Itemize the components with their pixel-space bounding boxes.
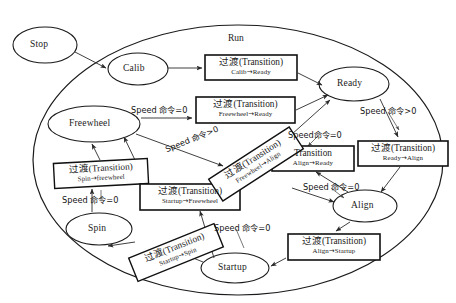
box-sub-from-ready-align: Ready <box>383 154 401 161</box>
guard-label-ready-align: Speed 命令>0 <box>360 104 416 116</box>
box-head-en-ready-align: (Transition) <box>391 143 435 153</box>
box-sub-from-spin-freewheel: Spin <box>78 174 91 182</box>
box-head-en-align-startup: (Transition) <box>322 236 366 246</box>
box-head-en-align-ready: Transition <box>294 148 332 158</box>
box-sub-from-calib-ready: Calib <box>231 68 246 75</box>
box-head-cn-ready-align: 过渡 <box>371 142 391 153</box>
box-sub-to-spin-freewheel: freewheel <box>97 172 125 180</box>
box-head-en-freewheel-ready: (Transition) <box>233 99 277 109</box>
box-sub-from-startup-freewheel: Startup <box>162 197 183 204</box>
box-text-align-startup: 过渡(Transition) Align→Startup <box>288 236 380 255</box>
box-sub-to-startup-freewheel: Freewheel <box>188 197 218 204</box>
box-sub-to-align-startup: Startup <box>335 247 356 254</box>
box-sub-to-calib-ready: Ready <box>253 68 271 75</box>
state-machine-diagram: Run Stop Calib Ready Freewheel Align Spi… <box>0 0 456 303</box>
guard-label-align-startup: Speed 命令=0 <box>303 180 359 192</box>
box-sub-to-align-ready: Ready <box>315 159 333 166</box>
box-sub-to-ready-align: Align <box>407 154 423 161</box>
box-head-cn-freewheel-ready: 过渡 <box>213 98 233 109</box>
box-head-cn-align-startup: 过渡 <box>302 235 322 246</box>
box-head-en-calib-ready: (Transition) <box>239 57 283 67</box>
guard-label-startup-spin: Speed 命令=0 <box>214 221 270 233</box>
guard-label-spin-freewheel: Speed 命令=0 <box>62 193 118 205</box>
box-head-cn-spin-freewheel: 过渡 <box>68 163 89 175</box>
box-sub-to-freewheel-ready: Ready <box>254 110 272 117</box>
box-sub-from-align-startup: Align <box>313 247 329 254</box>
box-text-freewheel-ready: 过渡(Transition) Freewheel→Ready <box>196 99 295 118</box>
box-head-cn-startup-freewheel: 过渡 <box>158 185 178 196</box>
box-text-ready-align: 过渡(Transition) Ready→Align <box>358 143 448 162</box>
box-sub-from-freewheel-ready: Freewheel <box>219 110 249 117</box>
box-sub-from-align-ready: Align <box>293 159 309 166</box>
box-head-cn-calib-ready: 过渡 <box>219 56 239 67</box>
guard-label-align-ready: Speed命令=0 <box>288 128 342 140</box>
guard-label-freewheel-ready: Speed 命令=0 <box>131 103 187 115</box>
box-text-calib-ready: 过渡(Transition) Calib→Ready <box>205 57 297 76</box>
